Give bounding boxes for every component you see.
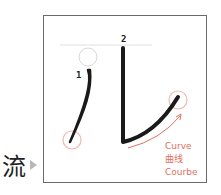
stroke-2-path <box>123 48 178 142</box>
start-circle-empty <box>79 48 97 66</box>
annotation-en: Curve <box>165 140 192 152</box>
annotation-fr: Courbe <box>165 166 197 178</box>
stroke-number-2: 2 <box>121 34 126 44</box>
annotation-zh: 曲线 <box>165 153 183 165</box>
stroke-number-1: 1 <box>76 70 81 80</box>
